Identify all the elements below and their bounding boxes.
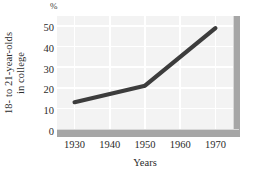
data-series-line — [57, 16, 233, 129]
chart-figure: 18- to 21-year-olds in college % 0 10 20… — [0, 0, 259, 178]
x-tick-1940: 1940 — [99, 139, 120, 150]
y-tick-40: 40 — [4, 43, 54, 54]
x-tick-1960: 1960 — [170, 139, 191, 150]
y-tick-50: 50 — [4, 22, 54, 33]
y-tick-10: 10 — [4, 105, 54, 116]
y-axis-tick-labels: 0 10 20 30 40 50 — [0, 0, 54, 178]
x-axis-bar — [57, 129, 239, 137]
x-axis-tick-labels: 1930 1940 1950 1960 1970 — [57, 139, 233, 153]
x-tick-1930: 1930 — [64, 139, 85, 150]
x-tick-1950: 1950 — [135, 139, 156, 150]
plot-area — [57, 16, 233, 129]
y-tick-30: 30 — [4, 64, 54, 75]
panel-right-shadow — [233, 16, 240, 137]
x-axis-title: Years — [57, 157, 233, 168]
y-tick-20: 20 — [4, 84, 54, 95]
x-tick-1970: 1970 — [205, 139, 226, 150]
y-tick-0: 0 — [4, 126, 54, 137]
series-polyline — [75, 28, 216, 102]
